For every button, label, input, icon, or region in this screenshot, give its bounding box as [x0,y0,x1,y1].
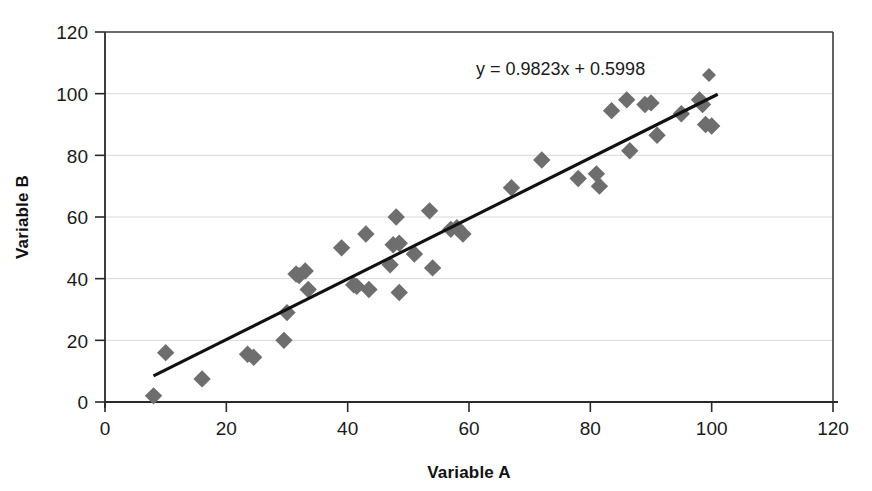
y-axis: 0 20 40 60 80 100 120 [56,22,105,413]
y-tick-label-40: 40 [67,269,88,290]
y-tick-label-120: 120 [56,22,88,43]
x-tick-label-0: 0 [100,418,111,439]
x-tick-label-100: 100 [696,418,728,439]
equation-text: y = 0.9823x + 0.5998 [476,59,645,79]
x-axis: 0 20 40 60 80 100 120 [100,402,849,439]
x-tick-label-80: 80 [580,418,601,439]
chart-canvas: 0 20 40 60 80 100 120 0 20 40 60 80 100 … [0,0,872,491]
x-axis-title: Variable A [427,463,511,482]
y-tick-label-20: 20 [67,331,88,352]
y-tick-label-100: 100 [56,84,88,105]
y-tick-label-80: 80 [67,146,88,167]
y-tick-label-0: 0 [77,392,88,413]
x-tick-label-60: 60 [458,418,479,439]
x-tick-label-120: 120 [817,418,849,439]
y-axis-title: Variable B [13,175,32,259]
scatter-chart-figure: 0 20 40 60 80 100 120 0 20 40 60 80 100 … [0,0,872,491]
y-tick-label-60: 60 [67,207,88,228]
x-tick-label-40: 40 [337,418,358,439]
x-tick-label-20: 20 [216,418,237,439]
